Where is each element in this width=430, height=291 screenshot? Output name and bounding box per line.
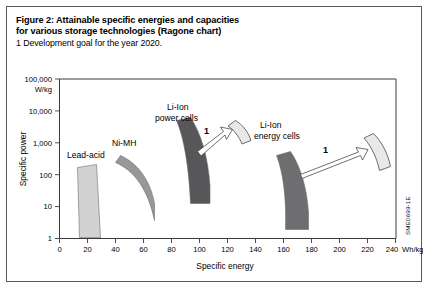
x-tick-label-0: 0 [57, 245, 61, 254]
x-tick-label-240: 240 [386, 245, 399, 254]
region-label-li-ion-energy-cells: Li-Ion energy cells [254, 120, 300, 141]
x-tick-label-120: 120 [221, 245, 234, 254]
x-tick-label-140: 140 [249, 245, 262, 254]
region-li-ion-energy-cells [277, 152, 309, 230]
goal-marker-1-energy-cells: 1 [323, 145, 328, 155]
x-axis-tick-labels: 0 20 40 60 80 100 120 140 160 180 200 22… [57, 245, 423, 254]
x-tick-label-100: 100 [193, 245, 206, 254]
target-li-ion-power-cells-2020 [228, 121, 251, 145]
region-label-ni-mh: Ni-MH [112, 138, 136, 148]
x-tick-label-60: 60 [139, 245, 147, 254]
x-tick-label-80: 80 [167, 245, 175, 254]
region-ni-mh [116, 156, 155, 221]
y-axis-tick-labels: 100,000 W/kg 10,000 1,000 100 10 1 [25, 75, 52, 244]
y-tick-label-1: 1 [48, 234, 52, 243]
svg-text:Li-Ion: Li-Ion [260, 120, 282, 130]
figure-container: Figure 2: Attainable specific energies a… [6, 6, 422, 282]
x-axis-title: Specific energy [196, 261, 254, 271]
svg-text:energy cells: energy cells [254, 131, 300, 141]
x-tick-label-160: 160 [277, 245, 290, 254]
y-tick-label-100: 100 [39, 171, 52, 180]
goal-arrow-energy-cells [301, 148, 369, 179]
y-tick-label-10: 10 [44, 202, 52, 211]
target-li-ion-energy-cells-2020 [364, 134, 391, 171]
x-tick-label-40: 40 [111, 245, 119, 254]
y-axis-unit: W/kg [35, 85, 52, 94]
y-tick-label-10000: 10,000 [29, 107, 52, 116]
region-lead-acid [78, 165, 101, 238]
region-label-lead-acid: Lead-acid [67, 150, 105, 160]
y-axis-title: Specific power [18, 132, 28, 187]
region-label-li-ion-power-cells: Li-Ion power cells [155, 102, 198, 123]
figure-code: SME0699-1E [404, 196, 411, 235]
x-axis-unit: Wh/kg [402, 245, 423, 254]
x-axis-ticks [60, 239, 396, 244]
ragone-chart: 100,000 W/kg 10,000 1,000 100 10 1 Speci… [7, 7, 423, 283]
x-tick-label-220: 220 [361, 245, 374, 254]
y-axis-ticks [55, 79, 60, 239]
y-tick-label-100000: 100,000 [25, 75, 52, 84]
svg-text:power cells: power cells [155, 113, 198, 123]
x-tick-label-20: 20 [83, 245, 91, 254]
x-tick-label-200: 200 [333, 245, 346, 254]
y-tick-label-1000: 1,000 [33, 139, 52, 148]
goal-marker-1-power-cells: 1 [204, 126, 209, 136]
goal-arrow-power-cells [198, 127, 233, 156]
svg-text:Li-Ion: Li-Ion [167, 102, 189, 112]
x-tick-label-180: 180 [305, 245, 318, 254]
